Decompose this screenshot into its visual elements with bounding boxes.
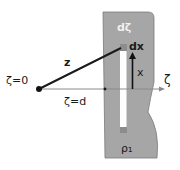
plane-point (104, 88, 107, 91)
height-label: x (137, 67, 144, 78)
plane-position-label: ζ=d (64, 96, 86, 107)
distance-label: z (64, 57, 70, 68)
origin-label: ζ=0 (6, 75, 28, 86)
density-label: ρ₁ (121, 143, 132, 154)
axis-label: ζ (164, 75, 171, 86)
strip-element-top (120, 44, 127, 51)
origin-point (36, 86, 42, 92)
slab-element-label: dζ (117, 22, 131, 33)
strip-element-bottom (120, 127, 127, 133)
zeta-axis-arrowhead-icon (159, 87, 165, 92)
strip-element-label: dx (129, 41, 144, 52)
